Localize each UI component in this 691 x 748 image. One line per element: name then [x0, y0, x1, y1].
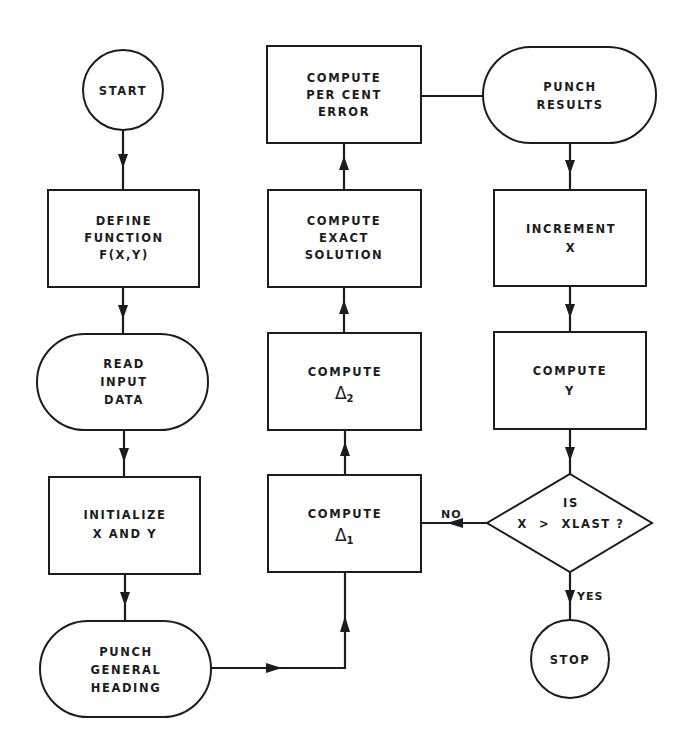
node-label: COMPUTE — [307, 71, 381, 85]
arrow-up-icon — [339, 300, 349, 314]
node-define-function[interactable]: DEFINE FUNCTION F(X,Y) — [48, 190, 199, 287]
node-decision[interactable]: IS X > XLAST ? — [487, 474, 652, 572]
node-label: PER CENT — [306, 88, 382, 102]
arrow-down-icon — [118, 154, 128, 168]
node-compute-exact[interactable]: COMPUTE EXACT SOLUTION — [268, 190, 421, 287]
node-increment-x[interactable]: INCREMENT X — [494, 190, 646, 286]
node-label: STOP — [550, 653, 591, 667]
node-label: DATA — [104, 393, 144, 407]
process-box — [268, 475, 421, 572]
node-label: Y — [564, 384, 575, 398]
process-box — [49, 477, 200, 574]
node-label: INITIALIZE — [83, 508, 166, 522]
arrow-down-icon — [118, 305, 128, 319]
node-label: READ — [103, 357, 145, 371]
arrow-down-icon — [119, 448, 129, 462]
arrow-right-icon — [266, 663, 282, 673]
node-label: GENERAL — [90, 663, 161, 677]
edge-label-no: NO — [441, 508, 462, 521]
process-box — [494, 332, 646, 429]
node-label: COMPUTE — [307, 214, 381, 228]
node-label: DEFINE — [96, 214, 153, 228]
arrow-down-icon — [120, 592, 130, 606]
arrow-up-icon — [339, 156, 349, 170]
node-label: PUNCH — [99, 645, 152, 659]
node-label: INCREMENT — [526, 222, 616, 236]
arrow-down-icon — [565, 304, 575, 318]
node-label: IS — [563, 496, 579, 510]
node-label: F(X,Y) — [99, 248, 149, 262]
node-punch-results[interactable]: PUNCH RESULTS — [483, 47, 656, 143]
node-label: FUNCTION — [84, 231, 164, 245]
node-compute-delta1[interactable]: COMPUTE Δ1 — [268, 475, 421, 572]
terminal-shape — [483, 47, 656, 143]
node-label: X AND Y — [93, 527, 157, 541]
node-label: X — [566, 241, 576, 255]
node-label: ERROR — [318, 105, 370, 119]
node-label: PUNCH — [543, 80, 596, 94]
flowchart: NO YES START DEFINE FUNCTION F(X,Y) READ… — [0, 0, 691, 748]
arrow-down-icon — [565, 590, 575, 604]
node-label: COMPUTE — [308, 365, 382, 379]
edge-heading-delta1 — [211, 572, 345, 668]
arrow-up-icon — [340, 616, 350, 632]
arrow-down-icon — [565, 160, 575, 174]
node-label: RESULTS — [536, 98, 603, 112]
node-compute-y[interactable]: COMPUTE Y — [494, 332, 646, 429]
node-label: INPUT — [100, 375, 148, 389]
process-box — [268, 333, 421, 430]
node-label: X > XLAST ? — [517, 517, 624, 531]
node-label: SOLUTION — [305, 248, 384, 262]
node-label: COMPUTE — [533, 364, 607, 378]
arrow-up-icon — [340, 442, 350, 456]
node-stop[interactable]: STOP — [531, 620, 609, 698]
node-label: START — [99, 84, 147, 98]
node-label: HEADING — [91, 681, 161, 695]
arrow-down-icon — [565, 447, 575, 461]
node-compute-delta2[interactable]: COMPUTE Δ2 — [268, 333, 421, 430]
node-initialize[interactable]: INITIALIZE X AND Y — [49, 477, 200, 574]
edge-label-yes: YES — [576, 590, 603, 603]
node-compute-error[interactable]: COMPUTE PER CENT ERROR — [267, 46, 421, 143]
node-punch-heading[interactable]: PUNCH GENERAL HEADING — [40, 621, 211, 717]
node-start[interactable]: START — [83, 50, 163, 130]
process-box — [494, 190, 646, 286]
node-label: COMPUTE — [308, 507, 382, 521]
node-label: EXACT — [319, 231, 369, 245]
node-read-input[interactable]: READ INPUT DATA — [37, 334, 208, 430]
